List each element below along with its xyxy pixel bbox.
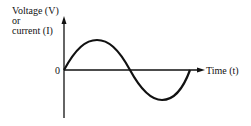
x-axis-arrow-icon: [197, 68, 205, 73]
y-axis-label-current: current (I): [12, 25, 53, 36]
x-axis-label: Time (t): [206, 65, 239, 76]
sine-wave-diagram: Voltage (V) or current (I) 0 Time (t): [0, 0, 251, 126]
y-axis-arrow-icon: [62, 16, 67, 24]
origin-label: 0: [55, 65, 60, 76]
diagram-canvas: [0, 0, 251, 126]
